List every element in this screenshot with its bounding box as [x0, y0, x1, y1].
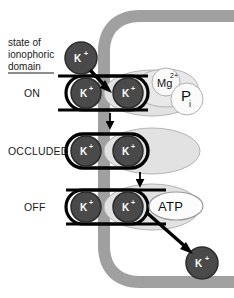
ion-label: K — [122, 146, 130, 157]
ion-label: K — [122, 88, 130, 99]
ionophoric-domain-diagram: K + K + Mg 2+ P i — [0, 0, 234, 298]
diagram-canvas: K + K + Mg 2+ P i — [0, 0, 234, 298]
ligand-mg-superscript: 2+ — [170, 72, 178, 79]
ion-potassium-occluded-2: K + — [113, 136, 143, 166]
ion-label: K — [122, 202, 130, 213]
ion-charge: + — [205, 255, 209, 262]
state-occluded-group: K + K + — [66, 128, 200, 174]
ion-label: K — [80, 202, 88, 213]
ion-potassium-free-top: K + — [65, 42, 97, 74]
ion-label: K — [80, 146, 88, 157]
ligand-pi: P i — [171, 83, 203, 115]
ligand-atp: ATP — [149, 192, 203, 220]
state-label-on: ON — [24, 87, 40, 99]
ion-potassium-off-1: K + — [71, 192, 101, 222]
ion-charge: + — [131, 143, 135, 150]
ion-charge: + — [131, 85, 135, 92]
ion-label: K — [80, 88, 88, 99]
ion-potassium-occluded-1: K + — [71, 136, 101, 166]
ion-charge: + — [131, 199, 135, 206]
ligand-pi-subscript: i — [189, 99, 191, 109]
caption-line-1: state of — [8, 37, 41, 48]
state-label-occluded: OCCLUDED — [8, 145, 69, 157]
ion-potassium-on-2: K + — [113, 78, 143, 108]
ion-label: K — [195, 258, 203, 269]
ligand-atp-label: ATP — [158, 199, 183, 214]
ion-potassium-off-2: K + — [113, 192, 143, 222]
ion-charge: + — [89, 85, 93, 92]
ion-charge: + — [89, 143, 93, 150]
caption-line-2: ionophoric — [8, 49, 54, 60]
ion-charge: + — [89, 199, 93, 206]
state-on-group: K + K + Mg 2+ P i — [58, 68, 203, 116]
caption-line-3: domain — [8, 61, 41, 72]
ion-charge: + — [84, 50, 88, 57]
state-off-group: K + K + ATP — [66, 184, 203, 230]
ion-potassium-on-1: K + — [71, 78, 101, 108]
state-label-off: OFF — [24, 201, 46, 213]
ion-label: K — [74, 53, 82, 64]
caption-state-of-ionophoric-domain: state of ionophoric domain — [8, 37, 54, 73]
